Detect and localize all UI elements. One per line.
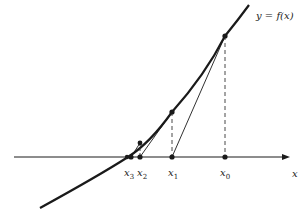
curve-label: y = f(x): [255, 10, 294, 21]
curve-point-x2: [138, 141, 143, 146]
newton-method-diagram: y = f(x) x x0 x1 x2 x3: [0, 0, 302, 220]
label-x2: x2: [137, 167, 147, 181]
axis-point-x1: [169, 154, 174, 159]
curve-point-x0: [222, 33, 227, 38]
axis-label: x: [292, 168, 298, 179]
axis-point-x2: [137, 154, 142, 159]
tangent-line-x1: [140, 112, 172, 157]
label-x3: x3: [124, 167, 134, 181]
root-point: [125, 155, 129, 159]
label-x0: x0: [220, 167, 230, 181]
tangent-line-x0: [172, 36, 225, 157]
axis-point-x0: [222, 154, 227, 159]
x-axis-arrow: [282, 154, 290, 160]
label-x1: x1: [168, 167, 178, 181]
curve-point-x1: [169, 109, 174, 114]
